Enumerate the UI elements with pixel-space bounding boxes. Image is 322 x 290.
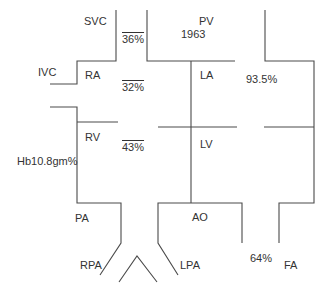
label-rv: RV bbox=[85, 131, 100, 143]
value-ra-sat: 32% bbox=[122, 81, 144, 93]
value-svc-sat: 36% bbox=[122, 33, 144, 45]
heart-schematic bbox=[0, 0, 322, 290]
label-ao: AO bbox=[192, 211, 208, 223]
value-fa-sat: 64% bbox=[250, 252, 272, 264]
pa-bifurcation-wedge bbox=[119, 256, 157, 282]
value-hemoglobin: Hb10.8gm% bbox=[17, 155, 78, 167]
label-lv: LV bbox=[200, 138, 213, 150]
label-ra: RA bbox=[85, 69, 100, 81]
label-la: LA bbox=[200, 69, 213, 81]
label-fa: FA bbox=[284, 259, 297, 271]
value-pv-year: 1963 bbox=[181, 28, 205, 40]
value-rv-sat: 43% bbox=[122, 141, 144, 153]
label-lpa: LPA bbox=[180, 259, 200, 271]
label-svc: SVC bbox=[84, 15, 107, 27]
value-la-sat: 93.5% bbox=[246, 73, 277, 85]
label-pv: PV bbox=[199, 15, 214, 27]
label-rpa: RPA bbox=[80, 259, 102, 271]
label-ivc: IVC bbox=[38, 66, 56, 78]
label-pa: PA bbox=[75, 212, 89, 224]
